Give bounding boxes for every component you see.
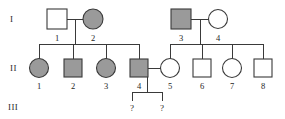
individual-I-2-label: 2 bbox=[91, 33, 95, 43]
sibship-line-generation-3 bbox=[132, 92, 162, 101]
individual-III-1-unknown-marker[interactable]: ? bbox=[130, 103, 134, 113]
individual-II-3-label: 3 bbox=[104, 81, 108, 91]
individual-I-1-square[interactable] bbox=[47, 9, 67, 29]
sibship-line-right-family bbox=[170, 44, 263, 59]
individual-II-5-label: 5 bbox=[168, 81, 172, 91]
mating-line-I3-I4 bbox=[191, 19, 209, 44]
individual-II-6-square[interactable] bbox=[193, 59, 211, 77]
individual-I-3-label: 3 bbox=[179, 33, 183, 43]
individual-II-5-circle[interactable] bbox=[161, 59, 180, 78]
individual-II-2-square[interactable] bbox=[64, 59, 82, 77]
individual-I-4-circle[interactable] bbox=[209, 10, 228, 29]
sibship-line-left-family bbox=[39, 44, 139, 59]
generation-label-3: III bbox=[8, 102, 18, 112]
individual-II-8-square[interactable] bbox=[254, 59, 272, 77]
individual-I-3-square[interactable] bbox=[171, 9, 191, 29]
mating-line-I1-I2 bbox=[67, 19, 84, 44]
individual-II-7-circle[interactable] bbox=[223, 59, 242, 78]
generation-label-2: II bbox=[10, 63, 17, 73]
individual-II-1-label: 1 bbox=[37, 81, 41, 91]
individual-II-7-label: 7 bbox=[230, 81, 234, 91]
individual-II-1-circle[interactable] bbox=[30, 59, 49, 78]
individual-I-4-label: 4 bbox=[216, 33, 221, 43]
mating-line-II4-II5 bbox=[147, 68, 161, 92]
individual-II-8-label: 8 bbox=[261, 81, 265, 91]
pedigree-chart: I II III bbox=[0, 0, 285, 119]
individual-I-2-circle[interactable] bbox=[83, 9, 103, 29]
individual-III-2-unknown-marker[interactable]: ? bbox=[160, 103, 164, 113]
individual-II-4-square[interactable] bbox=[130, 59, 148, 77]
individual-I-1-label: 1 bbox=[55, 33, 59, 43]
individual-II-4-label: 4 bbox=[137, 81, 142, 91]
individual-II-2-label: 2 bbox=[71, 81, 75, 91]
pedigree-canvas: I II III bbox=[0, 0, 285, 119]
individual-II-3-circle[interactable] bbox=[97, 59, 116, 78]
generation-label-1: I bbox=[10, 14, 13, 24]
individual-II-6-label: 6 bbox=[200, 81, 204, 91]
